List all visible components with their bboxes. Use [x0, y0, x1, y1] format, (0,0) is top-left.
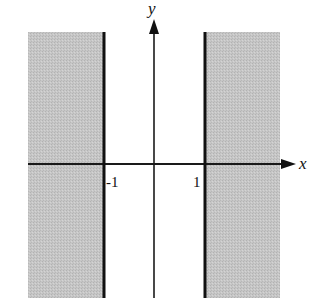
y-axis — [149, 19, 159, 298]
x-axis-arrow-icon — [281, 159, 296, 169]
y-axis-arrow-icon — [149, 19, 159, 34]
diagram-canvas: y x -1 1 — [0, 0, 321, 305]
tick-label-pos1: 1 — [193, 174, 201, 190]
tick-label-neg1: -1 — [106, 174, 119, 190]
y-axis-label: y — [146, 0, 156, 18]
x-axis-label: x — [298, 154, 307, 173]
